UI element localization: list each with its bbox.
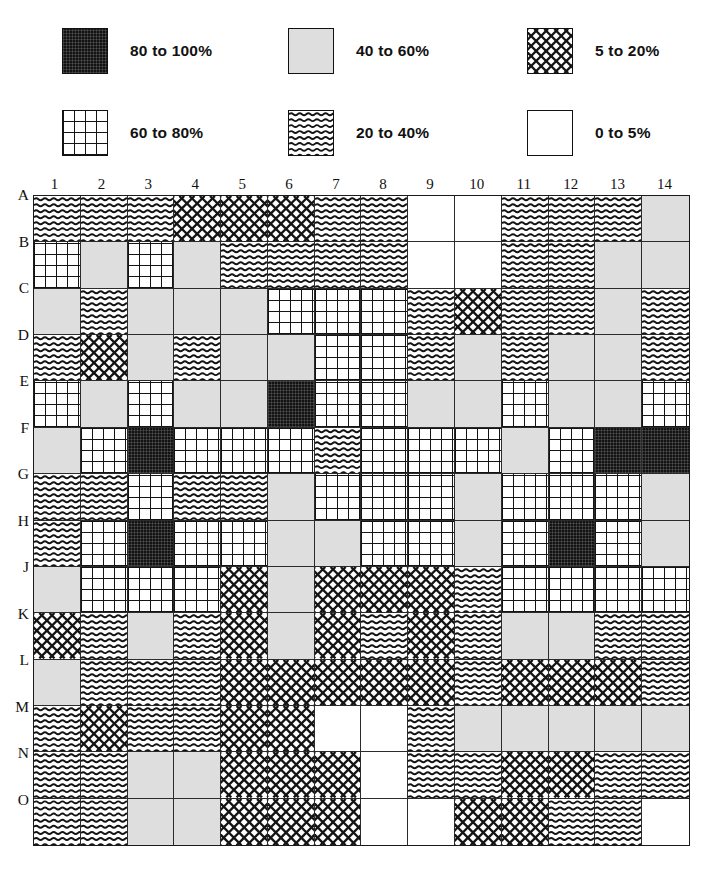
grid-cell-N9 (408, 752, 455, 798)
grid-cell-O12 (549, 799, 596, 845)
grid-cell-G2 (81, 474, 128, 520)
legend: 80 to 100%40 to 60%5 to 20%60 to 80%20 t… (0, 0, 710, 178)
grid-cell-A2 (81, 196, 128, 242)
grid-cell-K1 (34, 613, 81, 659)
grid-cell-E7 (315, 381, 362, 427)
row-label-C: C (13, 279, 29, 297)
grid-cell-N5 (221, 752, 268, 798)
row-label-H: H (13, 512, 29, 530)
grid-cell-A9 (408, 196, 455, 242)
grid-cell-N12 (549, 752, 596, 798)
grid-cell-D7 (315, 335, 362, 381)
grid-cell-M4 (174, 706, 221, 752)
grid-cell-K6 (268, 613, 315, 659)
column-label-4: 4 (180, 176, 210, 193)
row-label-A: A (13, 186, 29, 204)
row-label-F: F (13, 419, 29, 437)
grid-cell-C14 (642, 289, 689, 335)
column-label-11: 11 (509, 176, 539, 193)
grid-cell-K3 (128, 613, 175, 659)
grid-cell-F11 (502, 428, 549, 474)
grid-cell-M5 (221, 706, 268, 752)
grid-cell-B6 (268, 242, 315, 288)
grid-cell-G7 (315, 474, 362, 520)
legend-item-p05: 5 to 20% (527, 28, 660, 74)
grid-cell-H6 (268, 521, 315, 567)
grid-cell-C6 (268, 289, 315, 335)
pattern-grid-chart (33, 195, 690, 846)
column-label-13: 13 (603, 176, 633, 193)
grid-cell-G11 (502, 474, 549, 520)
grid-cell-D9 (408, 335, 455, 381)
grid-cell-M12 (549, 706, 596, 752)
column-label-8: 8 (368, 176, 398, 193)
legend-item-p40: 40 to 60% (288, 28, 429, 74)
grid-cell-F4 (174, 428, 221, 474)
grid-cell-H9 (408, 521, 455, 567)
grid-cell-L3 (128, 660, 175, 706)
row-label-E: E (13, 372, 29, 390)
grid-cell-K14 (642, 613, 689, 659)
row-label-G: G (13, 465, 29, 483)
grid-cell-G14 (642, 474, 689, 520)
grid-cell-L13 (595, 660, 642, 706)
grid-cell-G10 (455, 474, 502, 520)
grid-cell-B14 (642, 242, 689, 288)
grid-cell-O14 (642, 799, 689, 845)
grid-cell-A8 (361, 196, 408, 242)
grid-cell-K10 (455, 613, 502, 659)
grid-cell-L5 (221, 660, 268, 706)
legend-item-p00: 0 to 5% (527, 110, 651, 156)
grid-cell-C12 (549, 289, 596, 335)
grid-cell-B13 (595, 242, 642, 288)
grid-cell-J2 (81, 567, 128, 613)
grid-cell-C1 (34, 289, 81, 335)
grid-cell-B9 (408, 242, 455, 288)
grid-cell-L14 (642, 660, 689, 706)
legend-label: 60 to 80% (130, 124, 203, 142)
grid-cell-D12 (549, 335, 596, 381)
grid-cell-G9 (408, 474, 455, 520)
grid-cell-B7 (315, 242, 362, 288)
grid-cell-K5 (221, 613, 268, 659)
grid-cell-G13 (595, 474, 642, 520)
grid-cell-M8 (361, 706, 408, 752)
grid-cell-A3 (128, 196, 175, 242)
row-label-N: N (13, 744, 29, 762)
column-label-6: 6 (274, 176, 304, 193)
legend-swatch-diagonal-crosshatch (527, 28, 573, 74)
grid-cell-B2 (81, 242, 128, 288)
heatmap-grid (33, 195, 690, 846)
grid-cell-H7 (315, 521, 362, 567)
grid-cell-M9 (408, 706, 455, 752)
row-label-L: L (13, 651, 29, 669)
grid-cell-K9 (408, 613, 455, 659)
grid-cell-G4 (174, 474, 221, 520)
grid-cell-K4 (174, 613, 221, 659)
grid-cell-B1 (34, 242, 81, 288)
grid-cell-C3 (128, 289, 175, 335)
grid-cell-L9 (408, 660, 455, 706)
grid-cell-M11 (502, 706, 549, 752)
column-label-7: 7 (321, 176, 351, 193)
grid-cell-B12 (549, 242, 596, 288)
column-label-1: 1 (39, 176, 69, 193)
grid-cell-O13 (595, 799, 642, 845)
grid-cell-N10 (455, 752, 502, 798)
grid-cell-F3 (128, 428, 175, 474)
grid-cell-O2 (81, 799, 128, 845)
grid-cell-M1 (34, 706, 81, 752)
grid-cell-J13 (595, 567, 642, 613)
row-label-J: J (13, 558, 29, 576)
row-label-B: B (13, 233, 29, 251)
grid-cell-N13 (595, 752, 642, 798)
grid-cell-L7 (315, 660, 362, 706)
grid-cell-G1 (34, 474, 81, 520)
grid-cell-A5 (221, 196, 268, 242)
grid-cell-A6 (268, 196, 315, 242)
grid-cell-H14 (642, 521, 689, 567)
grid-cell-O8 (361, 799, 408, 845)
grid-cell-K2 (81, 613, 128, 659)
grid-cell-N7 (315, 752, 362, 798)
column-label-14: 14 (650, 176, 680, 193)
